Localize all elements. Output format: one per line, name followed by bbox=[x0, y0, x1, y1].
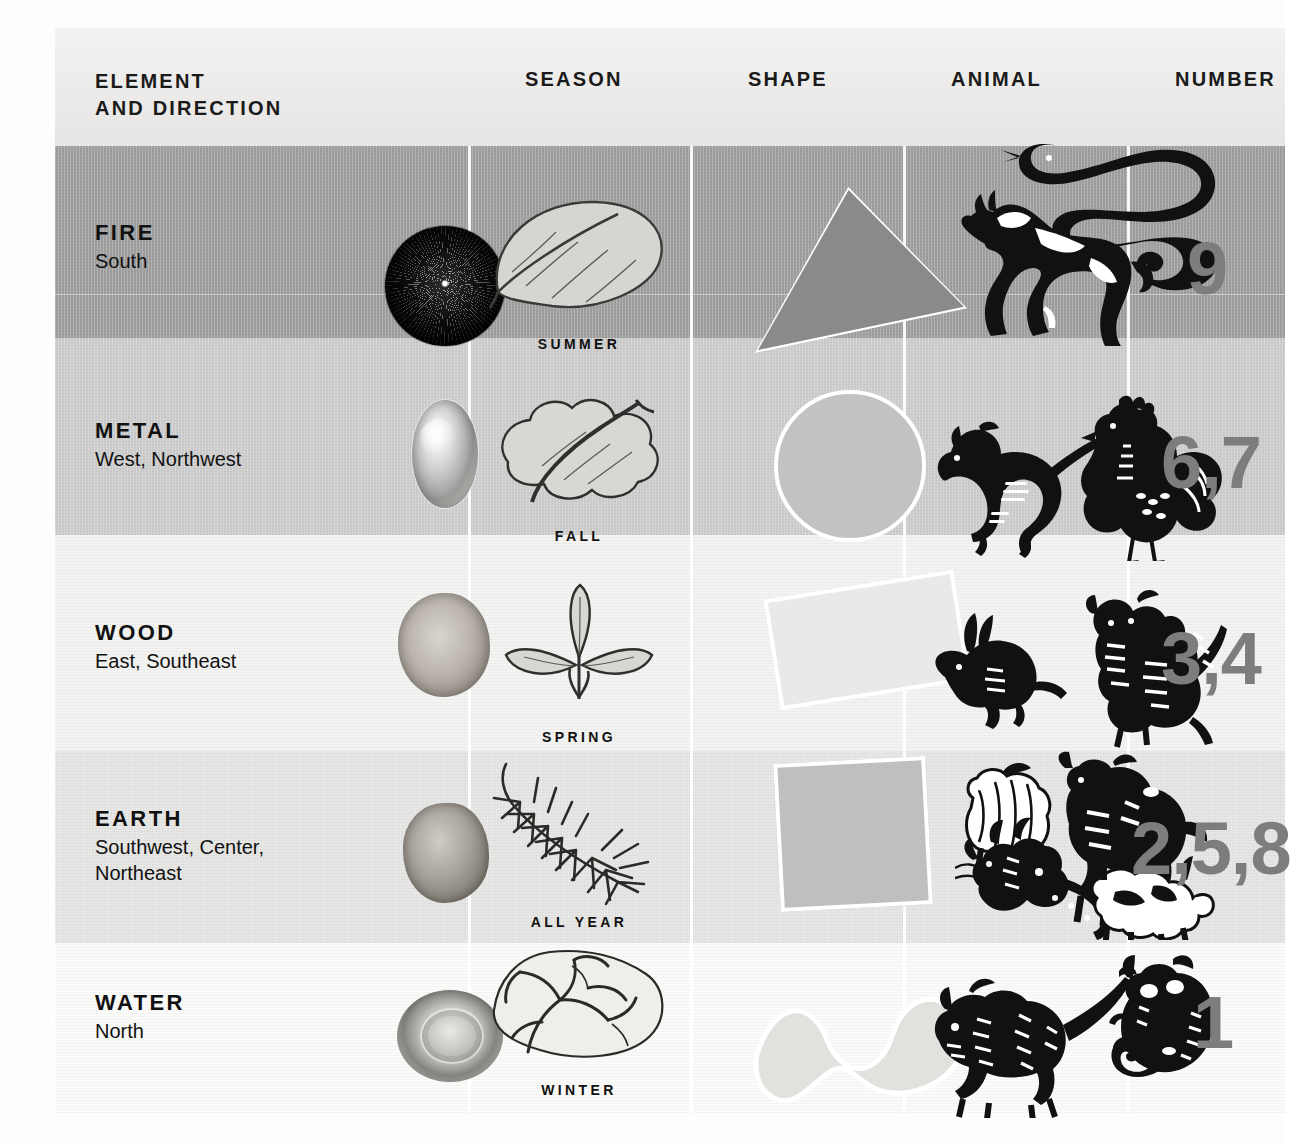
shape-circle-metal bbox=[774, 390, 926, 542]
element-direction-earth-line2: Northeast bbox=[95, 860, 395, 886]
table-header-band: ELEMENT AND DIRECTION SEASON SHAPE ANIMA… bbox=[55, 28, 1285, 146]
season-label-summer: SUMMER bbox=[468, 336, 690, 352]
element-direction-fire: South bbox=[95, 248, 395, 274]
column-header-element-and-direction: ELEMENT AND DIRECTION bbox=[95, 68, 283, 122]
element-cell-water: WATER North bbox=[95, 990, 395, 1044]
element-direction-earth-line1: Southwest, Center, bbox=[95, 834, 395, 860]
column-header-season: SEASON bbox=[525, 68, 623, 91]
fall-leaf-icon bbox=[468, 372, 690, 526]
season-cell-winter: WINTER bbox=[468, 926, 690, 1098]
column-header-animal: ANIMAL bbox=[951, 68, 1042, 91]
number-value-earth: 2,5,8 bbox=[1127, 806, 1294, 891]
all-year-pine-branch-icon bbox=[468, 758, 690, 912]
element-name-earth: EARTH bbox=[95, 806, 395, 832]
number-value-water: 1 bbox=[1127, 980, 1294, 1065]
chart-frame: ELEMENT AND DIRECTION SEASON SHAPE ANIMA… bbox=[55, 28, 1285, 1113]
element-direction-water: North bbox=[95, 1018, 395, 1044]
column-separator bbox=[690, 146, 693, 1113]
winter-vine-icon bbox=[468, 926, 690, 1080]
column-header-number: NUMBER bbox=[1175, 68, 1276, 91]
element-cell-fire: FIRE South bbox=[95, 220, 395, 274]
element-name-fire: FIRE bbox=[95, 220, 395, 246]
summer-leaf-icon bbox=[468, 180, 690, 334]
element-cell-metal: METAL West, Northwest bbox=[95, 418, 395, 472]
element-direction-earth: Southwest, Center, Northeast bbox=[95, 834, 395, 886]
shape-square-earth bbox=[773, 756, 933, 912]
column-header-shape: SHAPE bbox=[748, 68, 828, 91]
number-value-metal: 6,7 bbox=[1127, 420, 1294, 505]
season-cell-all-year: ALL YEAR bbox=[468, 758, 690, 930]
season-label-fall: FALL bbox=[468, 528, 690, 544]
season-cell-spring: SPRING bbox=[468, 573, 690, 745]
rabbit-icon bbox=[935, 613, 1067, 729]
column-header-element-line2: AND DIRECTION bbox=[95, 95, 283, 122]
element-direction-metal: West, Northwest bbox=[95, 446, 395, 472]
season-label-winter: WINTER bbox=[468, 1082, 690, 1098]
spring-sprout-icon bbox=[468, 573, 690, 727]
element-name-wood: WOOD bbox=[95, 620, 395, 646]
pig-icon bbox=[935, 966, 1137, 1118]
season-cell-fall: FALL bbox=[468, 372, 690, 544]
element-cell-wood: WOOD East, Southeast bbox=[95, 620, 395, 674]
season-cell-summer: SUMMER bbox=[468, 180, 690, 352]
element-cell-earth: EARTH Southwest, Center, Northeast bbox=[95, 806, 395, 886]
season-label-spring: SPRING bbox=[468, 729, 690, 745]
number-value-fire: 9 bbox=[1127, 226, 1294, 311]
element-direction-wood: East, Southeast bbox=[95, 648, 395, 674]
column-header-element-line1: ELEMENT bbox=[95, 68, 283, 95]
element-name-water: WATER bbox=[95, 990, 395, 1016]
number-value-wood: 3,4 bbox=[1127, 616, 1294, 701]
element-name-metal: METAL bbox=[95, 418, 395, 444]
